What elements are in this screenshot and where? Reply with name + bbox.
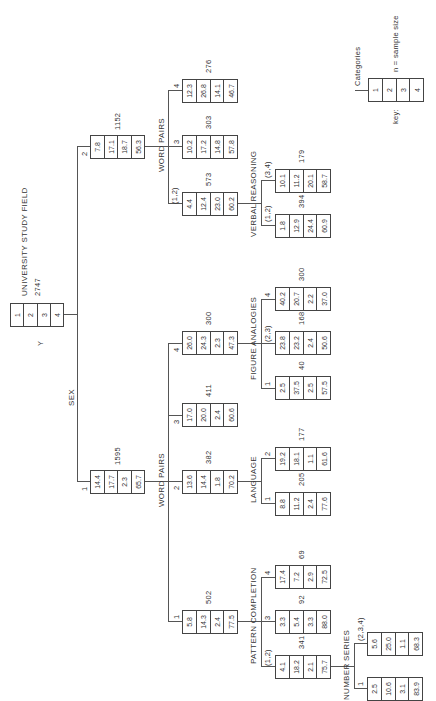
connector (261, 388, 275, 389)
connector (168, 146, 182, 147)
connector (261, 503, 275, 504)
cell: 50.6 (320, 336, 327, 350)
node-fa4: 40.2 20.7 2.2 37.0 (275, 287, 331, 311)
sample-size: 177 (297, 428, 306, 441)
trunk (261, 180, 262, 226)
node-pc3: 3.3 5.4 3.3 88.0 (275, 610, 331, 634)
cell: 3.3 (279, 617, 286, 627)
cell: 17.2 (200, 140, 207, 154)
sample-size: 168 (297, 312, 306, 325)
node-sex1: 14.4 17.7 2.3 65.7 (90, 470, 145, 494)
cell: 11.2 (293, 497, 300, 510)
sample-size: 341 (297, 636, 306, 649)
branch-label: 1 (80, 487, 89, 491)
branch-label: 1 (356, 682, 365, 686)
cell: 12.3 (186, 84, 193, 98)
cell: 1.8 (279, 221, 286, 231)
cell: 14.8 (213, 140, 220, 154)
cell: 57.8 (227, 140, 234, 154)
branch-label: 3 (172, 140, 181, 144)
split-label: WORD PAIRS (157, 118, 166, 172)
cell: 11.2 (293, 174, 300, 187)
node-vr34: 10.1 11.2 20.1 58.7 (275, 169, 331, 193)
key-note: n = sample size (391, 15, 400, 72)
node-s1wp1: 5.8 14.3 2.4 77.5 (182, 610, 238, 634)
cell: 68.3 (412, 637, 419, 651)
cell: 60.2 (227, 197, 234, 211)
connector (261, 180, 275, 181)
root-node-box: 1 2 3 4 (10, 303, 64, 327)
trunk-sex (77, 146, 78, 482)
cell: 5.6 (371, 639, 378, 649)
branch-label: (1,2) (170, 187, 179, 204)
cell: 20.1 (306, 174, 313, 188)
cell: 56.3 (134, 140, 141, 154)
cell: 2.1 (306, 662, 313, 672)
branch-label: 4 (172, 84, 181, 88)
branch-label: 1 (172, 615, 181, 619)
cell: 4 (413, 88, 420, 92)
cell: 17.7 (107, 475, 114, 489)
cell: 3.1 (398, 684, 405, 694)
cell: 75.7 (320, 660, 327, 674)
branch-label: 4 (172, 348, 181, 352)
connector (168, 90, 182, 91)
branch-label: 4 (263, 293, 272, 297)
cell: 18.2 (293, 660, 300, 674)
split-label: FIGURE ANALOGIES (249, 297, 258, 380)
cell: 8.8 (279, 499, 286, 509)
branch-label: (2,3,4) (356, 617, 365, 641)
branch-label: (1,2) (263, 649, 272, 666)
cell: 23.2 (293, 336, 300, 350)
cell: 72.5 (320, 570, 327, 584)
sample-size: 502 (204, 591, 213, 604)
cell: 5.4 (293, 617, 300, 627)
cell: 83.9 (412, 682, 419, 696)
cell: 18.1 (293, 452, 300, 466)
cell: 60.9 (320, 219, 327, 233)
node-s2wp12: 4.4 12.4 23.0 60.2 (182, 192, 238, 216)
connector (168, 481, 182, 482)
sample-size: 300 (204, 312, 213, 325)
node-s2wp4: 12.3 26.8 14.1 46.7 (182, 79, 238, 103)
cell: 10.1 (279, 174, 286, 188)
node-lang1: 8.8 11.2 2.4 77.6 (275, 492, 331, 516)
cell: 4.4 (186, 199, 193, 209)
key-title: Categories (353, 47, 362, 86)
branch-label: 3 (172, 420, 181, 424)
connector (261, 458, 275, 459)
split-label: WORD PAIRS (157, 453, 166, 507)
branch-label: 2 (172, 486, 181, 490)
cell: 20.7 (293, 292, 300, 306)
sample-size: 300 (297, 268, 306, 281)
cell: 13.6 (186, 475, 193, 489)
key-stub (355, 90, 368, 91)
branch-label: 2 (263, 452, 272, 456)
node-ns234: 5.6 25.0 1.1 68.3 (367, 632, 423, 656)
connector (77, 481, 90, 482)
cell: 61.6 (320, 452, 327, 466)
cell: 25.0 (385, 637, 392, 651)
cell: 58.7 (320, 174, 327, 188)
cell: 24.3 (200, 336, 207, 350)
cell: 2.9 (306, 572, 313, 582)
node-pc12: 4.1 18.2 2.1 75.7 (275, 655, 331, 679)
connector (168, 415, 182, 416)
connector (261, 225, 275, 226)
root-title: UNIVERSITY STUDY FIELD (20, 187, 29, 296)
cell: 10.6 (385, 682, 392, 696)
cell: 7.2 (293, 572, 300, 582)
branch-label: (3,4) (263, 161, 272, 178)
sample-size: 205 (297, 473, 306, 486)
sample-size: 276 (204, 60, 213, 73)
split-label: VERBAL REASONING (249, 151, 258, 237)
trunk (261, 458, 262, 504)
connector (168, 343, 182, 344)
sample-size: 382 (204, 451, 213, 464)
branch-label: (1,2) (263, 205, 272, 222)
cell: 3 (40, 313, 47, 317)
cell: 70.2 (227, 475, 234, 489)
cell: 3 (399, 88, 406, 92)
cell: 24.4 (306, 219, 313, 233)
cell: 20.0 (200, 408, 207, 422)
